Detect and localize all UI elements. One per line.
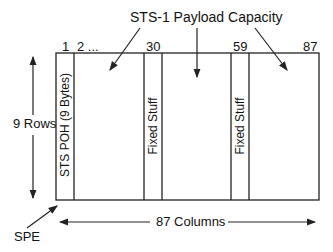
columns-label: 87 Columns xyxy=(156,214,225,229)
payload-arrow-left xyxy=(110,28,140,70)
frame-box xyxy=(56,53,319,200)
column-label-59: 59 xyxy=(233,39,247,54)
spe-arrow xyxy=(27,206,57,228)
poh-label: STS POH (9 Bytes) xyxy=(58,70,72,180)
column-label-30: 30 xyxy=(146,39,160,54)
column-label-2: 2 ... xyxy=(77,39,99,54)
column-label-87: 87 xyxy=(303,39,317,54)
payload-arrow-right xyxy=(255,28,287,70)
rows-label: 9 Rows xyxy=(13,116,56,131)
column-label-1: 1 xyxy=(62,39,69,54)
spe-label: SPE xyxy=(14,229,40,244)
payload-capacity-title: STS-1 Payload Capacity xyxy=(130,9,283,25)
fixed-stuff-2-label: Fixed Stuff xyxy=(233,86,247,166)
fixed-stuff-1-label: Fixed Stuff xyxy=(146,86,160,166)
